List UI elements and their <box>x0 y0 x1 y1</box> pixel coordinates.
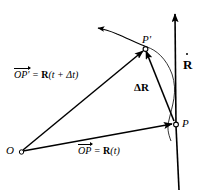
vector-op-prime-equals: = <box>29 69 41 80</box>
point-marker-o <box>19 150 23 154</box>
vector-op-label: OP = R(t) <box>78 146 120 156</box>
point-label-p: P <box>182 118 189 129</box>
point-label-p-prime: P' <box>142 34 151 45</box>
r-dot-letter: R <box>183 57 192 72</box>
vector-op-equals: = <box>91 145 103 156</box>
vector-op-prime-label: OP' = R(t + Δt) <box>14 70 78 80</box>
vector-diagram: O P' P OP' = R(t + Δt) OP = R(t) ΔR R <box>0 0 204 193</box>
vector-op-prime-head-text: OP' <box>14 69 29 80</box>
vertical-axis-rdot <box>175 14 179 190</box>
vector-op-overbar: OP <box>78 146 91 156</box>
vector-op-arg: (t) <box>110 145 119 156</box>
vector-op-prime-arg: (t + Δt) <box>48 69 78 80</box>
point-marker-p <box>174 122 179 127</box>
vector-delta-r-arrow <box>146 51 174 121</box>
point-label-o: O <box>6 145 14 156</box>
point-marker-p-prime <box>143 47 148 52</box>
vector-delta-r-label: ΔR <box>134 82 149 93</box>
vector-op-head-text: OP <box>78 145 91 156</box>
vector-r-dot-label: R <box>183 58 204 71</box>
diagram-canvas <box>0 0 204 193</box>
r-dot-accent-icon <box>186 53 188 55</box>
vector-op-prime-arrow <box>23 51 143 150</box>
vector-op-prime-overbar: OP' <box>14 70 29 80</box>
